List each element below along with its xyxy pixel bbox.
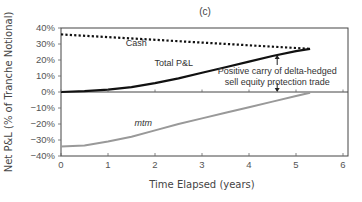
chart-title: (c): [199, 6, 211, 17]
y-axis: 40%30%20%10%0%−10%−20%−30%−40%: [30, 22, 61, 161]
plot-area: [61, 28, 348, 156]
annotation-text: Positive carry of delta-hedged: [218, 66, 337, 76]
annotation-text: sell equity protection trade: [225, 77, 330, 87]
series-label: Total P&L: [155, 58, 194, 68]
y-tick-label: 20%: [36, 54, 56, 65]
x-axis-title: Time Elapsed (years): [148, 179, 255, 190]
x-axis: 0123456: [58, 90, 345, 171]
series-mtm: [61, 93, 310, 147]
y-tick-label: −30%: [30, 134, 55, 145]
y-tick-label: 0%: [41, 86, 55, 97]
x-tick-label: 6: [340, 159, 345, 170]
y-tick-label: −10%: [30, 102, 55, 113]
x-tick-label: 2: [152, 159, 157, 170]
y-axis-title: Net P&L (% of Tranche Notional): [3, 12, 14, 173]
y-tick-label: 40%: [36, 22, 56, 33]
chart: (c) 40%30%20%10%0%−10%−20%−30%−40% 01234…: [0, 0, 362, 202]
y-tick-label: −40%: [30, 150, 55, 161]
series-label: mtm: [135, 118, 153, 128]
series-label: Cash: [126, 38, 147, 48]
y-tick-label: −20%: [30, 118, 55, 129]
series-cash: [61, 34, 310, 48]
x-tick-label: 1: [105, 159, 110, 170]
y-tick-label: 10%: [36, 70, 56, 81]
y-tick-label: 30%: [36, 38, 56, 49]
x-tick-label: 4: [246, 159, 251, 170]
x-tick-label: 5: [293, 159, 298, 170]
x-tick-label: 3: [199, 159, 204, 170]
arrow-down-head: [275, 88, 280, 92]
x-tick-label: 0: [58, 159, 63, 170]
